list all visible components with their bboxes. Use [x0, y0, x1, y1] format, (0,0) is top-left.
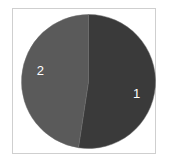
pie-label-1: 1: [133, 86, 140, 101]
pie-slice-1: [78, 14, 155, 148]
pie-chart: 12: [0, 0, 169, 165]
pie-label-2: 2: [37, 63, 44, 78]
pie-slice-2: [22, 15, 89, 148]
